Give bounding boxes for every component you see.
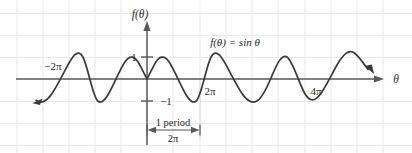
- x-tick-label-four-pi: 4π: [310, 85, 322, 97]
- y-tick-label-positive-one: 1: [131, 51, 137, 63]
- x-tick-label-neg-two-pi: −2π: [44, 60, 62, 72]
- function-equation-label: f(θ) = sin θ: [210, 36, 260, 49]
- y-axis-label: f(θ): [132, 8, 149, 21]
- period-value-label: 2π: [168, 133, 179, 144]
- sine-function-graph-figure: f(θ) θ f(θ) = sin θ 1 −1 −2π 2π 4π 1 per…: [0, 0, 412, 153]
- curve-right-arrowhead: [365, 64, 374, 74]
- graph-canvas: f(θ) θ f(θ) = sin θ 1 −1 −2π 2π 4π 1 per…: [0, 0, 412, 153]
- y-tick-label-negative-one: −1: [160, 95, 172, 107]
- x-axis-label: θ: [393, 73, 399, 85]
- period-arrowhead-right: [191, 127, 200, 133]
- period-label: 1 period: [156, 117, 191, 128]
- x-tick-label-two-pi: 2π: [204, 85, 216, 97]
